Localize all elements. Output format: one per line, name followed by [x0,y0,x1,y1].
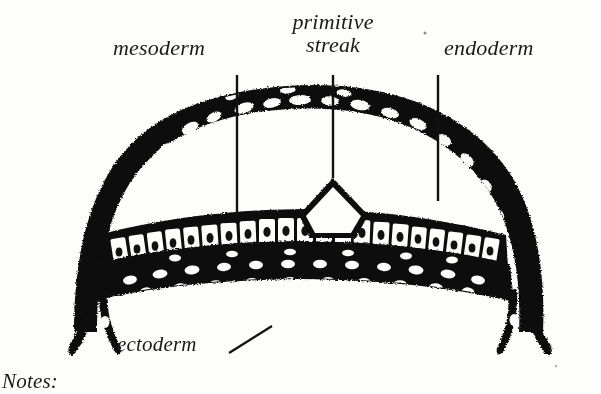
label-ectoderm: ectoderm [117,333,197,355]
label-endoderm: endoderm [444,36,534,59]
figure-canvas: mesoderm primitive streak endoderm ectod… [0,0,601,394]
scan-speck [424,32,427,35]
label-primitive-streak-line1: primitive [281,10,385,33]
primitive-streak-structure [299,178,368,238]
label-primitive-streak: primitive streak [281,10,385,56]
label-primitive-streak-line2: streak [281,33,385,56]
notes-heading: Notes: [2,370,58,392]
scan-speck-2 [555,365,557,367]
label-mesoderm: mesoderm [113,36,205,59]
leader-line-ectoderm [229,326,272,353]
